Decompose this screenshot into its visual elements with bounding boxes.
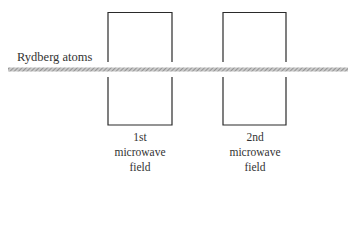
second-field-label-line3: field	[215, 160, 295, 175]
beam-label: Rydberg atoms	[17, 50, 92, 65]
first-field-label: 1st microwave field	[100, 130, 180, 175]
first-field-label-line3: field	[100, 160, 180, 175]
first-field-label-line2: microwave	[100, 145, 180, 160]
atom-beam	[8, 68, 348, 72]
second-field-label-line1: 2nd	[215, 130, 295, 145]
second-field-label: 2nd microwave field	[215, 130, 295, 175]
first-field-label-line1: 1st	[100, 130, 180, 145]
second-field-label-line2: microwave	[215, 145, 295, 160]
